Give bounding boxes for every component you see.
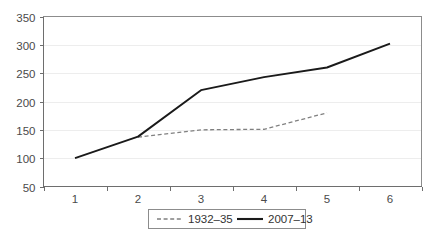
x-axis-tick-label: 6	[387, 193, 393, 205]
y-axis-tick-label: 350	[16, 12, 35, 24]
x-axis-tick-label: 1	[72, 193, 78, 205]
y-axis: 50100150200250300350	[16, 12, 43, 194]
y-axis-tick-label: 50	[23, 182, 36, 194]
chart-legend: 1932–352007–13	[149, 210, 313, 229]
y-axis-tick-label: 250	[16, 68, 35, 80]
y-axis-tick-label: 300	[16, 40, 35, 52]
y-axis-tick-label: 150	[16, 125, 35, 137]
y-axis-tick-label: 100	[16, 153, 35, 165]
y-axis-tick-label: 200	[16, 97, 35, 109]
series-line-2	[75, 44, 390, 158]
legend-label-2: 2007–13	[268, 213, 313, 225]
data-series-group	[75, 44, 390, 158]
x-axis-tick-label: 2	[135, 193, 141, 205]
gridlines	[44, 46, 422, 159]
legend-label-1: 1932–35	[188, 213, 233, 225]
chart-canvas: 50100150200250300350 123456 1932–352007–…	[0, 0, 440, 240]
x-axis-tick-label: 5	[324, 193, 330, 205]
line-chart: 50100150200250300350 123456 1932–352007–…	[0, 0, 440, 240]
plot-area-border	[44, 17, 422, 187]
x-axis-tick-label: 3	[198, 193, 204, 205]
x-axis: 123456	[44, 187, 423, 205]
x-axis-tick-label: 4	[261, 193, 268, 205]
